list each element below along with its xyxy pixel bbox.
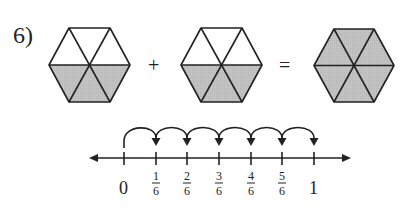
hexagon-addend-1 <box>49 28 130 102</box>
svg-text:5: 5 <box>279 169 285 183</box>
equals-sign: = <box>279 54 290 76</box>
svg-text:6: 6 <box>279 184 285 198</box>
problem-number: 6) <box>13 22 33 48</box>
svg-text:6: 6 <box>216 184 222 198</box>
svg-text:6: 6 <box>248 184 254 198</box>
hexagon-addend-2 <box>181 28 262 102</box>
svg-text:3: 3 <box>216 169 222 183</box>
tick-label-1-6: 1 6 <box>152 169 160 198</box>
tick-label-5-6: 5 6 <box>278 169 286 198</box>
hexagon-sum <box>314 29 394 102</box>
fraction-addition-diagram: 6) + = <box>0 0 402 209</box>
number-line <box>89 152 351 165</box>
svg-text:6: 6 <box>184 184 190 198</box>
tick-label-0: 0 <box>119 178 128 198</box>
svg-text:6: 6 <box>153 184 159 198</box>
svg-text:2: 2 <box>184 169 190 183</box>
svg-text:4: 4 <box>248 169 254 183</box>
left-arrowhead-icon <box>89 154 98 162</box>
tick-label-2-6: 2 6 <box>183 169 191 198</box>
tick-label-1: 1 <box>309 178 318 198</box>
jump-arrowheads <box>152 138 319 146</box>
tick-label-3-6: 3 6 <box>215 169 223 198</box>
plus-sign: + <box>148 54 159 76</box>
svg-text:1: 1 <box>153 169 159 183</box>
right-arrowhead-icon <box>342 154 351 162</box>
tick-label-4-6: 4 6 <box>247 169 255 198</box>
